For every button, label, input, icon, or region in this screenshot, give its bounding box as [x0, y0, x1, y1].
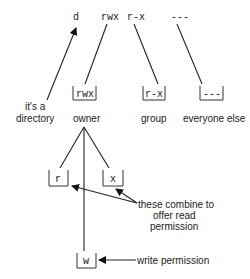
svg-text:r-x: r-x	[145, 89, 163, 100]
group-box: r-x	[143, 86, 165, 100]
owner-label: owner	[73, 113, 101, 124]
permissions-diagram: d rwx r-x --- rwx r-x --- it's a directo…	[0, 0, 250, 279]
write-text: write permission	[136, 255, 209, 266]
svg-text:---: ---	[203, 89, 221, 100]
owner-box: rwx	[73, 86, 96, 100]
svg-text:x: x	[110, 174, 116, 185]
combine-text-2: offer read	[153, 210, 196, 221]
svg-text:w: w	[83, 256, 89, 267]
type-char: d	[73, 12, 79, 23]
group-perms-top: r-x	[127, 12, 145, 23]
read-connector	[60, 127, 84, 168]
combine-text-3: permission	[150, 221, 198, 232]
owner-perms-top: rwx	[101, 12, 119, 23]
owner-connector	[85, 24, 107, 84]
directory-arrow	[47, 28, 76, 100]
svg-text:rwx: rwx	[76, 89, 94, 100]
execute-box: x	[103, 170, 123, 186]
svg-text:r: r	[55, 174, 61, 185]
group-label: group	[141, 113, 167, 124]
read-box: r	[49, 170, 68, 186]
execute-connector	[84, 127, 109, 168]
other-label: everyone else	[183, 113, 246, 124]
directory-label-1: it's a	[25, 101, 46, 112]
directory-label-2: directory	[16, 113, 54, 124]
group-connector	[134, 24, 158, 84]
other-connector	[177, 24, 202, 84]
write-box: w	[77, 253, 96, 268]
other-box: ---	[200, 86, 223, 100]
execute-annotation-arrow	[116, 189, 137, 203]
read-annotation-arrow	[72, 186, 137, 203]
other-perms-top: ---	[171, 12, 189, 23]
combine-text-1: these combine to	[138, 199, 215, 210]
